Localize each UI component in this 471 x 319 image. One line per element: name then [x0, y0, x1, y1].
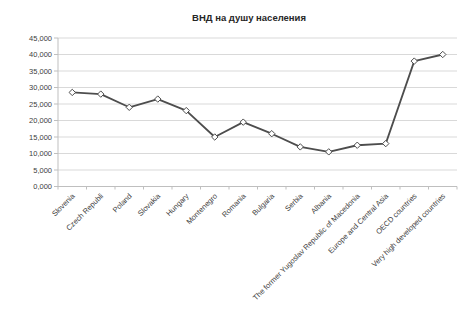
data-point-marker — [326, 149, 332, 155]
data-point-marker — [440, 51, 446, 57]
y-tick-label: 10,000 — [29, 149, 52, 158]
data-point-marker — [126, 104, 132, 110]
x-tick-label: Romania — [220, 191, 248, 219]
y-tick-label: 35,000 — [29, 67, 52, 76]
line-chart: ВНД на душу населения 0,0005,00010,00015… — [0, 0, 471, 319]
data-point-marker — [297, 144, 303, 150]
data-point-marker — [69, 89, 75, 95]
x-tick-label: Albania — [309, 191, 334, 216]
y-tick-label: 45,000 — [29, 34, 52, 43]
x-tick-label: Slovenia — [50, 191, 77, 218]
data-point-marker — [269, 131, 275, 137]
y-tick-label: 40,000 — [29, 50, 52, 59]
y-tick-label: 30,000 — [29, 83, 52, 92]
y-tick-label: 5,000 — [33, 166, 52, 175]
axis-labels-group: 0,0005,00010,00015,00020,00025,00030,000… — [29, 34, 447, 303]
y-tick-label: 20,000 — [29, 116, 52, 125]
x-tick-label: Poland — [111, 192, 134, 215]
y-tick-label: 25,000 — [29, 100, 52, 109]
data-point-marker — [98, 91, 104, 97]
data-series-group — [69, 51, 446, 155]
data-point-marker — [411, 58, 417, 64]
x-tick-label: Bulgaria — [250, 191, 276, 217]
chart-title: ВНД на душу населения — [192, 12, 306, 23]
x-tick-label: Montenegro — [184, 192, 219, 227]
data-point-marker — [155, 96, 161, 102]
x-tick-label: Slovakia — [136, 191, 163, 218]
y-tick-label: 15,000 — [29, 133, 52, 142]
data-point-marker — [240, 119, 246, 125]
x-tick-label: Serbia — [283, 191, 305, 213]
chart-container: ВНД на душу населения 0,0005,00010,00015… — [0, 0, 471, 319]
x-tick-label: The former Yugoslav Republic of Macedoni… — [251, 191, 362, 302]
data-point-marker — [354, 142, 360, 148]
data-point-marker — [383, 140, 389, 146]
y-tick-label: 0,000 — [33, 182, 52, 191]
x-tick-label: Hungary — [164, 191, 191, 218]
